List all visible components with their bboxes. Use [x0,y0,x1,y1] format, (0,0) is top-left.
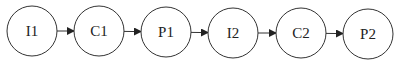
node-label: I1 [26,23,39,39]
node-i1: I1 [7,6,57,56]
node-i2: I2 [208,8,258,58]
node-c1: C1 [74,6,124,56]
flow-diagram: I1C1P1I2C2P2 [0,0,400,66]
node-label: P2 [360,26,376,42]
node-p2: P2 [343,9,393,59]
node-p1: P1 [141,7,191,57]
node-label: C2 [292,25,310,41]
node-c2: C2 [276,8,326,58]
node-label: I2 [227,25,240,41]
node-label: C1 [90,23,108,39]
node-label: P1 [158,24,174,40]
